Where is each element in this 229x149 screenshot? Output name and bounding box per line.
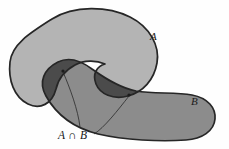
set-b-label: B xyxy=(191,95,198,107)
venn-diagram-canvas: A B A ∩ B xyxy=(0,0,229,149)
venn-diagram-figure: A B A ∩ B xyxy=(0,0,229,149)
left-lobe-marker xyxy=(61,69,64,72)
intersection-label: A ∩ B xyxy=(57,129,87,141)
set-a-label: A xyxy=(149,30,157,42)
right-lobe-marker xyxy=(127,93,130,96)
